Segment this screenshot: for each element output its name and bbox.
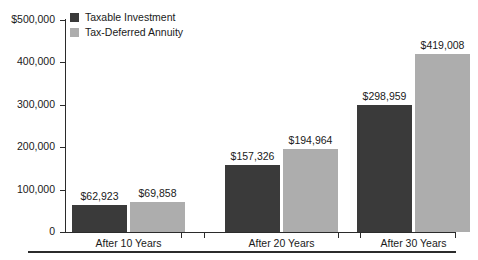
bar-chart: Taxable Investment Tax-Deferred Annuity … <box>0 0 478 260</box>
x-axis-tick <box>338 233 339 238</box>
x-axis-line <box>65 232 456 233</box>
y-axis-tick-label: 200,000 <box>17 140 55 153</box>
x-axis-category-label: After 30 Years <box>354 236 474 250</box>
bar: $69,858 <box>130 202 185 232</box>
bar-value-label: $69,858 <box>139 187 177 199</box>
bar-value-label: $62,923 <box>81 190 119 202</box>
bar-group: $62,923$69,858 <box>72 20 185 232</box>
y-axis-tick-label: 0 <box>49 225 55 238</box>
bar-value-label: $419,008 <box>421 39 465 51</box>
x-axis-category-label: After 10 Years <box>69 236 189 250</box>
bar-group: $298,959$419,008 <box>357 20 470 232</box>
y-axis-tick-label: 100,000 <box>17 183 55 196</box>
x-axis-category-label: After 20 Years <box>222 236 342 250</box>
x-axis-tick <box>455 233 456 238</box>
y-axis-tick-label: 300,000 <box>17 98 55 111</box>
x-axis-tick <box>360 233 361 238</box>
bar-value-label: $157,326 <box>231 150 275 162</box>
bar: $194,964 <box>283 149 338 232</box>
bottom-divider <box>28 251 456 253</box>
y-axis-tick-label: 400,000 <box>17 55 55 68</box>
y-axis-tick: 0 <box>60 232 66 233</box>
x-axis-tick <box>181 233 182 238</box>
bar-value-label: $298,959 <box>363 90 407 102</box>
bar: $157,326 <box>225 165 280 232</box>
x-axis-tick <box>204 233 205 238</box>
bar: $62,923 <box>72 205 127 232</box>
bar: $419,008 <box>415 54 470 232</box>
y-axis-tick-label: $500,000 <box>11 13 55 26</box>
plot-area: $62,923$69,858$157,326$194,964$298,959$4… <box>66 20 456 232</box>
bar-value-label: $194,964 <box>289 134 333 146</box>
bar-group: $157,326$194,964 <box>225 20 338 232</box>
bar: $298,959 <box>357 105 412 232</box>
